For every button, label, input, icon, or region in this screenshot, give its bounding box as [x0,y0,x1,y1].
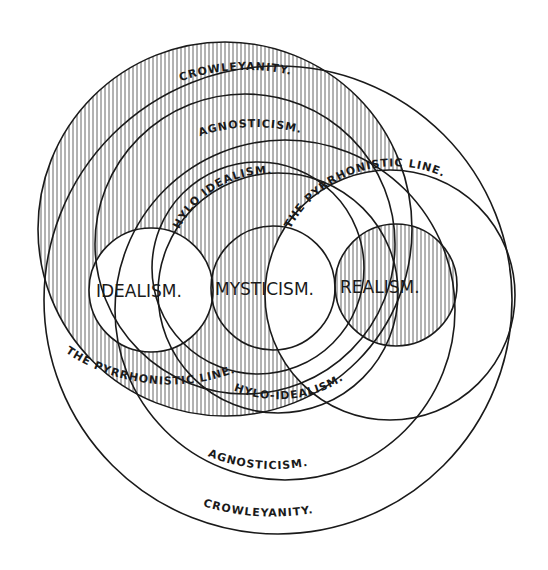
label-realism: REALISM. [340,277,420,297]
venn-diagram: CROWLEYANITY. AGNOSTICISM. HYLO IDEALISM… [0,0,548,570]
label-mysticism: MYSTICISM. [215,279,314,299]
label-idealism: IDEALISM. [96,281,182,301]
